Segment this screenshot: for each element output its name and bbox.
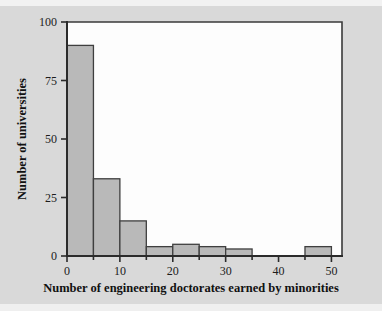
figure-container: 0255075100 01020304050 Number of enginee… xyxy=(0,0,382,311)
x-tick-label: 0 xyxy=(64,264,70,278)
y-axis-title: Number of universities xyxy=(15,78,29,200)
x-tick-label: 10 xyxy=(114,264,126,278)
histogram-bar xyxy=(146,247,172,256)
x-tick-label: 30 xyxy=(220,264,232,278)
y-tick-label: 25 xyxy=(45,191,57,205)
histogram-bar xyxy=(120,221,146,256)
x-tick-label: 40 xyxy=(273,264,285,278)
x-tick-label: 50 xyxy=(325,264,337,278)
histogram-bar xyxy=(226,249,252,256)
y-tick-label: 50 xyxy=(45,132,57,146)
x-axis-title: Number of engineering doctorates earned … xyxy=(43,281,339,295)
y-tick-label: 75 xyxy=(45,74,57,88)
x-tick-label: 20 xyxy=(167,264,179,278)
histogram-bar xyxy=(199,247,225,256)
y-tick-label: 0 xyxy=(51,249,57,263)
histogram-chart: 0255075100 01020304050 Number of enginee… xyxy=(0,0,382,311)
histogram-bar xyxy=(173,244,199,256)
y-axis-ticks: 0255075100 xyxy=(39,15,67,263)
histogram-bar xyxy=(305,247,331,256)
y-tick-label: 100 xyxy=(39,15,57,29)
histogram-bar xyxy=(67,45,93,256)
x-axis-ticks: 01020304050 xyxy=(64,256,337,278)
histogram-bar xyxy=(93,179,119,256)
